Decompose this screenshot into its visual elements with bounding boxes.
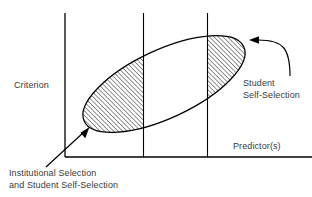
- x-axis-label: Predictor(s): [233, 141, 281, 153]
- student-self-selection-annotation: Student Self-Selection: [243, 78, 300, 101]
- curved-arrow-right: [258, 40, 290, 76]
- student-self-selection-line1: Student: [243, 78, 300, 90]
- institutional-selection-line2: and Student Self-Selection: [9, 180, 118, 192]
- institutional-selection-line1: Institutional Selection: [9, 168, 118, 180]
- institutional-selection-annotation: Institutional Selection and Student Self…: [9, 168, 118, 191]
- data-cloud-ellipse: [70, 16, 258, 152]
- y-axis-label: Criterion: [14, 80, 49, 92]
- figure-canvas: Criterion Predictor(s) Student Self-Sele…: [0, 0, 312, 197]
- curved-arrow-right-head: [249, 36, 259, 43]
- straight-arrow-left-head: [80, 127, 89, 138]
- student-self-selection-line2: Self-Selection: [243, 90, 300, 102]
